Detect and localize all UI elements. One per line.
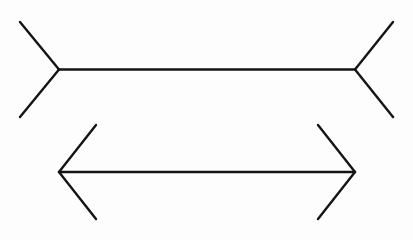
muller-lyer-figure [0, 0, 413, 240]
canvas-background [0, 0, 413, 240]
